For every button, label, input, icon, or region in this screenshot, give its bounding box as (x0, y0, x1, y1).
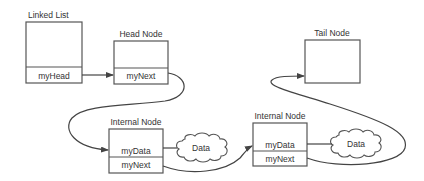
internal-node-2-title: Internal Node (254, 111, 305, 121)
internal-node-1: Internal Node myData myNext (109, 117, 163, 173)
internal-node-2: Internal Node myData myNext (253, 111, 307, 166)
tail-node: Tail Node (305, 28, 360, 83)
my-head-field: myHead (38, 71, 70, 81)
data-cloud-1: Data (177, 133, 227, 162)
linked-list-title: Linked List (28, 10, 69, 20)
internal-1-my-next-field: myNext (122, 160, 151, 170)
tail-node-title: Tail Node (314, 28, 350, 38)
data-cloud-1-label: Data (192, 143, 210, 153)
linked-list-node: Linked List myHead (26, 10, 82, 83)
data-cloud-2-label: Data (347, 139, 365, 149)
linked-list-diagram: Linked List myHead Head Node myNext Tail… (0, 0, 424, 181)
head-my-next-field: myNext (127, 71, 156, 81)
tail-node-box (305, 40, 360, 83)
head-node: Head Node myNext (114, 29, 168, 84)
head-node-title: Head Node (119, 29, 162, 39)
internal-1-my-data-field: myData (121, 146, 151, 156)
internal-node-1-title: Internal Node (110, 117, 161, 127)
data-cloud-2: Data (331, 129, 381, 158)
internal-2-my-next-field: myNext (266, 154, 295, 164)
internal-2-my-data-field: myData (265, 140, 295, 150)
